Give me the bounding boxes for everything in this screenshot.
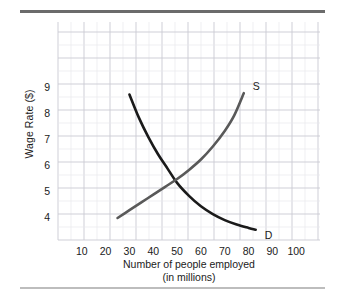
x-tick-label: 40 [140,245,166,257]
x-tick-label: 80 [236,245,262,257]
figure-container: Wage Rate ($) Number of people employed … [0,0,346,305]
x-tick-label: 60 [188,245,214,257]
x-axis-label-line2: (in millions) [58,271,320,284]
y-tick-label: 9 [28,81,50,93]
y-tick-label: 5 [28,185,50,197]
x-tick-label: 70 [212,245,238,257]
y-tick-label: 4 [28,211,50,223]
y-tick-label: 8 [28,107,50,119]
curve-label-s: S [253,80,260,92]
x-tick-label: 90 [259,245,285,257]
x-tick-label: 30 [116,245,142,257]
y-tick-label: 6 [28,159,50,171]
x-tick-label: 20 [93,245,119,257]
x-tick-label: 50 [164,245,190,257]
x-tick-label: 10 [69,245,95,257]
chart-plot-wrapper: Wage Rate ($) Number of people employed … [0,0,346,305]
x-tick-label: 100 [283,245,309,257]
x-axis-label: Number of people employed (in millions) [58,258,320,284]
curve-label-d: D [265,229,273,241]
y-tick-label: 7 [28,133,50,145]
x-axis-label-line1: Number of people employed [58,258,320,271]
chart-gridlines [58,22,320,240]
